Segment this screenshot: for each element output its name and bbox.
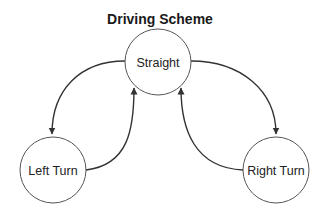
node-left-turn[interactable]: Left Turn — [20, 137, 86, 203]
edge-right-turn-to-straight — [181, 88, 243, 170]
edge-straight-to-left-turn — [52, 61, 125, 134]
driving-scheme-diagram: Driving Scheme Straight Left Turn Right … — [0, 0, 327, 214]
node-left-turn-label: Left Turn — [28, 164, 77, 178]
edge-straight-to-right-turn — [191, 61, 276, 134]
node-straight[interactable]: Straight — [125, 29, 191, 95]
node-straight-label: Straight — [136, 56, 180, 70]
node-right-turn-label: Right Turn — [247, 164, 305, 178]
diagram-title: Driving Scheme — [107, 11, 213, 27]
node-right-turn[interactable]: Right Turn — [243, 137, 309, 203]
edge-left-turn-to-straight — [86, 88, 134, 170]
